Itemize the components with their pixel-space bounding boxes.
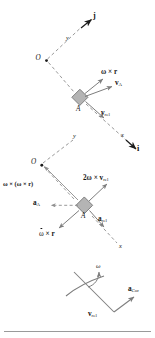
omega-dot-glyph: ω: [39, 231, 44, 238]
unit-vector-j-arrow: [81, 20, 92, 29]
v-rel-label-bottom: vrel: [88, 311, 97, 319]
omega-dot-rest: × r: [44, 230, 55, 238]
axis-y-label-upper: y: [66, 35, 69, 41]
origin-label-lower: O: [31, 159, 36, 166]
axis-y-label-lower: y: [73, 133, 76, 139]
origin-label-upper: O: [36, 55, 41, 62]
v-rel-bottom-sub: rel: [92, 313, 97, 318]
two-omega-v-sub: rel: [103, 177, 108, 182]
v-rel-sub: rel: [105, 112, 110, 117]
v-A-label: vA: [115, 80, 122, 88]
axis-y-upper: [48, 28, 82, 60]
vector-two-omega-cross-v-rel: [89, 184, 107, 201]
vector-omega-cross-omega-cross-r: [45, 167, 79, 201]
a-A-sub: A: [37, 202, 41, 207]
unit-vector-j-label: j: [93, 12, 96, 20]
axis-x-label-upper: x: [121, 132, 124, 138]
origin-dot-upper: [45, 59, 48, 62]
v-A-sub: A: [119, 82, 123, 87]
axis-y-lower: [43, 140, 73, 163]
two-omega-prefix: 2ω ×: [83, 174, 100, 182]
origin-dot-lower: [40, 164, 43, 167]
bottom-rule: [4, 331, 151, 332]
a-rel-sub: rel: [102, 218, 107, 223]
two-omega-cross-v-rel-label: 2ω × vrel: [83, 175, 108, 183]
a-Cor-sub: Cor: [132, 288, 139, 293]
omega-label-bottom: ω: [96, 263, 101, 269]
a-Cor-label: aCor: [128, 286, 139, 294]
a-rel-label: arel: [98, 216, 107, 224]
a-A-label: aA: [33, 200, 40, 208]
unit-vector-i-label: i: [137, 145, 139, 153]
vector-v-A: [85, 87, 112, 97]
omega-cross-omega-cross-r-label: ω × (ω × r): [3, 181, 33, 187]
point-label-A-lower: A: [81, 213, 85, 220]
coriolis-sketch: [66, 272, 134, 312]
figure-root: O y j ω × r vA A vrel x i y O ω × (ω × r…: [0, 0, 155, 338]
omega-dot-base: ω: [39, 230, 44, 238]
axis-x-label-lower: x: [119, 243, 122, 249]
v-rel-label-upper: vrel: [101, 110, 110, 118]
vector-omega-dot-cross-r: [59, 211, 79, 229]
unit-vector-i-arrow: [126, 140, 136, 149]
point-label-A-upper: A: [76, 106, 80, 113]
omega-cross-r-label-upper: ω × r: [101, 69, 117, 76]
block-at-A-upper: [72, 89, 88, 105]
omega-dot-cross-r-label: ω × r: [39, 231, 55, 238]
